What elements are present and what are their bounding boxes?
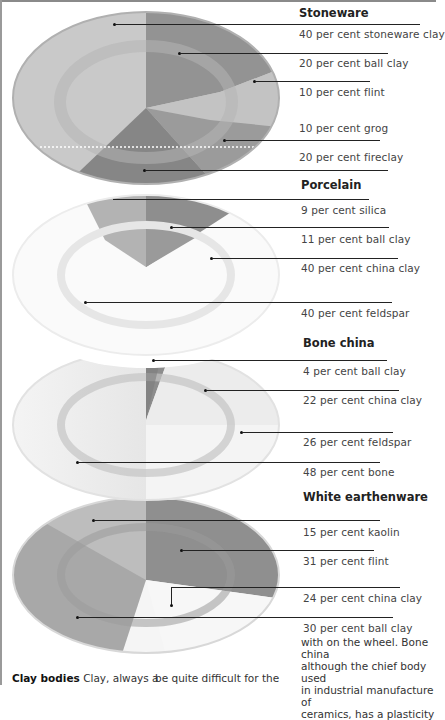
body-text-line: with on the wheel. Bone china — [301, 636, 436, 660]
body-text-column-3: with on the wheel. Bone china although t… — [301, 636, 436, 720]
pointer-dot — [170, 604, 173, 607]
body-text-column-2: be quite difficult for the — [155, 672, 279, 684]
body-text-column-1: Clay bodies Clay, always a — [12, 672, 159, 684]
section-title-white-earthenware: White earthenware — [303, 490, 428, 504]
body-text-line: although the chief body used — [301, 660, 436, 684]
leader-line — [86, 302, 392, 303]
leader-line — [206, 390, 399, 391]
leader-line — [182, 550, 374, 551]
leader-line-vertical — [171, 587, 172, 605]
leader-line — [212, 258, 398, 259]
leader-line — [78, 462, 380, 463]
label-stoneware-grog: 10 per cent grog — [299, 122, 388, 134]
section-title-bone-china: Bone china — [303, 336, 375, 350]
leader-line — [154, 360, 387, 361]
label-porcelain-ball-clay: 11 per cent ball clay — [301, 233, 411, 245]
plate-stoneware — [13, 10, 290, 190]
body-text-lead: Clay bodies — [12, 672, 80, 684]
label-stoneware-ball-clay: 20 per cent ball clay — [299, 57, 409, 69]
label-bone-china-ball-clay: 4 per cent ball clay — [303, 365, 406, 377]
leader-line — [78, 617, 393, 618]
label-porcelain-china-clay: 40 per cent china clay — [301, 262, 420, 274]
body-text-col1: Clay, always a — [80, 672, 159, 684]
label-stoneware-flint: 10 per cent flint — [299, 86, 385, 98]
leader-line — [94, 520, 380, 521]
body-text-line: in industrial manufacture of — [301, 684, 436, 708]
section-title-porcelain: Porcelain — [301, 178, 361, 192]
label-porcelain-silica: 9 per cent silica — [301, 204, 386, 216]
label-earthenware-ball-clay: 30 per cent ball clay — [303, 622, 413, 634]
leader-line — [172, 227, 389, 228]
label-stoneware-clay: 40 per cent stoneware clay — [299, 28, 445, 40]
leader-line — [225, 140, 380, 141]
label-stoneware-fireclay: 20 per cent fireclay — [299, 151, 403, 163]
leader-line — [115, 24, 420, 25]
label-bone-china-china-clay: 22 per cent china clay — [303, 394, 422, 406]
leader-line — [171, 587, 400, 588]
label-bone-china-bone: 48 per cent bone — [303, 466, 395, 478]
label-bone-china-feldspar: 26 per cent feldspar — [303, 436, 411, 448]
plate-porcelain — [13, 180, 279, 355]
body-text-line: ceramics, has a plasticity — [301, 708, 436, 720]
leader-line — [113, 199, 369, 200]
leader-line — [255, 81, 370, 82]
section-title-stoneware: Stoneware — [299, 6, 369, 20]
label-earthenware-kaolin: 15 per cent kaolin — [303, 526, 400, 538]
leader-line — [180, 53, 388, 54]
label-porcelain-feldspar: 40 per cent feldspar — [301, 307, 409, 319]
leader-line — [242, 432, 393, 433]
leader-line — [145, 170, 388, 171]
label-earthenware-china-clay: 24 per cent china clay — [303, 592, 422, 604]
label-earthenware-flint: 31 per cent flint — [303, 555, 389, 567]
